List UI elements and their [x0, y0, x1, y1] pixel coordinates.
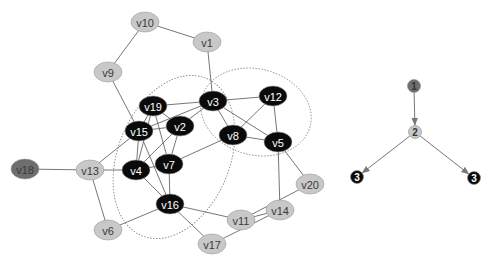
node-v19[interactable]: v19	[139, 96, 167, 116]
cluster-outlines	[90, 56, 321, 257]
node-v13[interactable]: v13	[76, 160, 104, 180]
node-label: v11	[233, 215, 250, 227]
node-label: v1	[201, 37, 213, 49]
legend-node-label: 2	[412, 127, 418, 138]
node-v7[interactable]: v7	[155, 154, 183, 174]
legend-graph-nodes: 1233	[351, 80, 481, 185]
node-v12[interactable]: v12	[259, 86, 287, 106]
node-v6[interactable]: v6	[94, 220, 122, 240]
node-v18[interactable]: v18	[11, 159, 39, 179]
node-label: v7	[163, 159, 175, 171]
node-v20[interactable]: v20	[296, 174, 324, 194]
node-label: v13	[81, 165, 99, 177]
node-v11[interactable]: v11	[227, 210, 255, 230]
node-label: v5	[272, 137, 284, 149]
node-v16[interactable]: v16	[156, 194, 184, 214]
node-v17[interactable]: v17	[198, 234, 226, 254]
node-v9[interactable]: v9	[94, 62, 122, 82]
legend-node-label: 1	[411, 81, 417, 92]
node-v4[interactable]: v4	[122, 160, 150, 180]
node-v2[interactable]: v2	[166, 116, 194, 136]
node-label: v14	[271, 205, 289, 217]
legend-node-n2[interactable]: 2	[409, 126, 422, 139]
node-label: v8	[227, 130, 239, 142]
node-label: v12	[264, 91, 282, 103]
node-v1[interactable]: v1	[193, 32, 221, 52]
node-label: v10	[136, 17, 154, 29]
node-label: v3	[207, 96, 219, 108]
node-label: v9	[102, 67, 114, 79]
node-label: v16	[161, 199, 179, 211]
main-graph-nodes: v10v1v9v19v3v12v2v15v8v5v7v4v13v18v16v20…	[11, 12, 324, 254]
legend-node-n3a[interactable]: 3	[351, 171, 364, 184]
node-v5[interactable]: v5	[264, 132, 292, 152]
node-label: v15	[130, 126, 148, 138]
node-label: v6	[102, 225, 114, 237]
node-v10[interactable]: v10	[131, 12, 159, 32]
node-label: v19	[144, 101, 162, 113]
legend-node-label: 3	[354, 172, 360, 183]
graph-canvas: v10v1v9v19v3v12v2v15v8v5v7v4v13v18v16v20…	[0, 0, 491, 264]
arrow-edge-n2-n3a	[363, 136, 410, 173]
node-v14[interactable]: v14	[266, 200, 294, 220]
arrow-edge-n1-n2	[414, 92, 415, 125]
legend-node-n3b[interactable]: 3	[468, 172, 481, 185]
node-label: v2	[174, 121, 186, 133]
node-v3[interactable]: v3	[199, 91, 227, 111]
legend-node-n1[interactable]: 1	[408, 80, 421, 93]
node-label: v18	[16, 164, 34, 176]
node-v8[interactable]: v8	[219, 125, 247, 145]
node-label: v4	[130, 165, 142, 177]
node-v15[interactable]: v15	[125, 121, 153, 141]
node-label: v17	[203, 239, 221, 251]
arrow-edge-n2-n3b	[420, 136, 468, 174]
node-label: v20	[301, 179, 319, 191]
legend-node-label: 3	[471, 173, 477, 184]
